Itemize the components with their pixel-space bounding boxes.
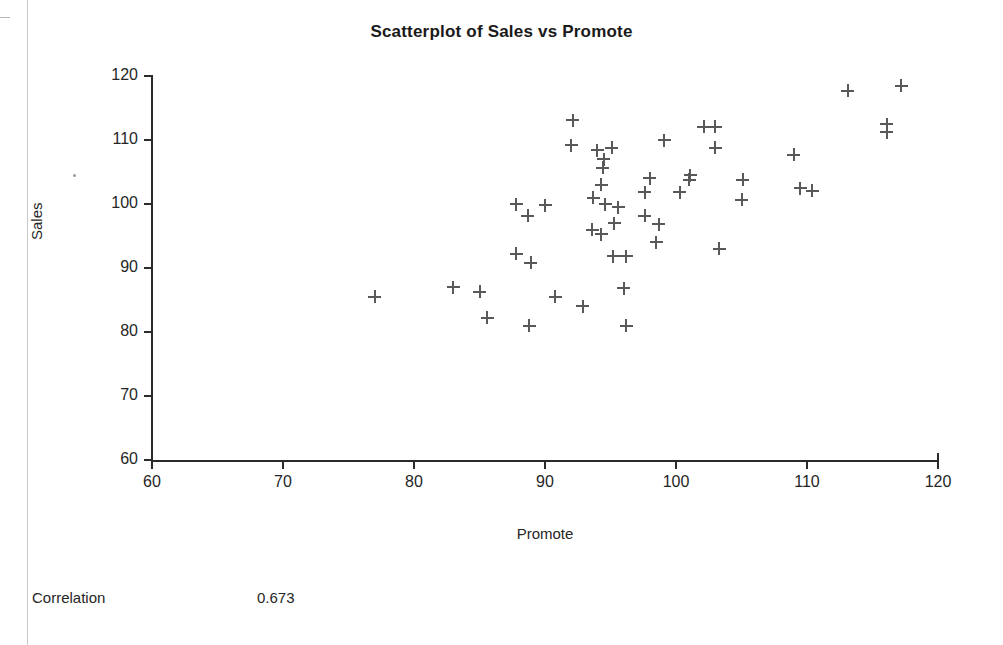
scatter-point	[524, 256, 537, 269]
scatter-point	[473, 285, 486, 298]
x-axis-tick-label: 120	[908, 474, 968, 490]
x-axis-tick	[806, 461, 808, 469]
x-axis-tick	[282, 461, 284, 469]
scatter-point	[841, 84, 854, 97]
x-axis-tick	[413, 461, 415, 469]
scatter-point	[596, 161, 609, 174]
y-axis-tick	[144, 267, 152, 269]
scatter-point	[620, 319, 633, 332]
y-axis-tick	[144, 139, 152, 141]
scatter-point	[806, 184, 819, 197]
x-axis-title: Promote	[0, 525, 1003, 542]
scatter-point	[597, 153, 610, 166]
y-axis-tick-label: 110	[90, 131, 138, 147]
scatter-point	[595, 178, 608, 191]
x-axis-tick	[675, 461, 677, 469]
scatter-point	[576, 300, 589, 313]
scatter-point	[523, 319, 536, 332]
scatter-point	[612, 201, 625, 214]
x-axis-tick	[151, 461, 153, 469]
scatter-point	[481, 311, 494, 324]
scatter-point	[620, 250, 633, 263]
scatter-point	[658, 134, 671, 147]
x-axis-tick-label: 80	[384, 474, 444, 490]
scatter-point	[599, 198, 612, 211]
scatter-point	[736, 173, 749, 186]
x-axis-tick-label: 70	[253, 474, 313, 490]
y-axis-tick-label: 120	[90, 67, 138, 83]
y-axis-tick-label: 90	[90, 259, 138, 275]
x-axis-tick-label: 90	[515, 474, 575, 490]
scatter-point	[683, 173, 696, 186]
scatter-point	[566, 114, 579, 127]
x-axis-tick-label: 60	[122, 474, 182, 490]
scatter-point	[607, 250, 620, 263]
y-axis-tick	[144, 203, 152, 205]
scatter-point	[880, 118, 893, 131]
scatter-point	[595, 228, 608, 241]
scatter-point	[605, 141, 618, 154]
scatter-point	[650, 236, 663, 249]
scatter-point	[608, 217, 621, 230]
scatter-point	[735, 193, 748, 206]
scatter-point	[652, 218, 665, 231]
correlation-value: 0.673	[257, 589, 295, 606]
x-axis-tick-label: 110	[777, 474, 837, 490]
scatter-point	[539, 199, 552, 212]
scatter-point	[638, 186, 651, 199]
scatter-point	[709, 120, 722, 133]
x-axis-tick	[937, 461, 939, 469]
scatter-point	[709, 141, 722, 154]
scatter-point	[586, 223, 599, 236]
scatter-point	[713, 242, 726, 255]
scatter-point	[638, 209, 651, 222]
scatter-point	[587, 191, 600, 204]
correlation-label: Correlation	[32, 589, 105, 606]
x-axis-tick-label: 100	[646, 474, 706, 490]
scatter-point	[565, 139, 578, 152]
scatter-point	[510, 247, 523, 260]
y-axis-tick	[144, 395, 152, 397]
y-axis-tick	[144, 331, 152, 333]
scatter-point	[684, 169, 697, 182]
scatter-point	[697, 120, 710, 133]
scatter-point	[591, 144, 604, 157]
scatter-point	[643, 172, 656, 185]
scatter-point	[521, 209, 534, 222]
y-axis-tick-label: 70	[90, 387, 138, 403]
scatter-point	[447, 281, 460, 294]
y-axis-tick	[144, 75, 152, 77]
scatter-point	[510, 198, 523, 211]
scatter-point	[787, 148, 800, 161]
scatter-plot-area: 60708090100110120 60708090100110120 Sale…	[0, 0, 1003, 645]
scatter-point	[617, 282, 630, 295]
scatter-point	[880, 126, 893, 139]
x-axis-tick	[544, 461, 546, 469]
scatter-point	[794, 182, 807, 195]
scatter-point	[368, 290, 381, 303]
y-axis-tick-label: 100	[90, 195, 138, 211]
scatter-point	[895, 79, 908, 92]
y-axis-tick-label: 60	[90, 451, 138, 467]
scatter-point	[549, 290, 562, 303]
scatter-point	[673, 186, 686, 199]
y-axis-tick-label: 80	[90, 323, 138, 339]
y-axis-title: Sales	[28, 202, 45, 240]
